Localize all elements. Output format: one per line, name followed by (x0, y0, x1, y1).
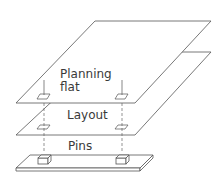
pins-base (16, 155, 153, 168)
layers-diagram (0, 0, 224, 184)
planning-flat-label: Planning flat (60, 68, 112, 94)
pin-right (116, 158, 126, 164)
layout-label: Layout (67, 109, 108, 122)
pin-left (38, 158, 48, 164)
planning-label-line2: flat (60, 81, 112, 94)
pins-label: Pins (68, 140, 92, 153)
